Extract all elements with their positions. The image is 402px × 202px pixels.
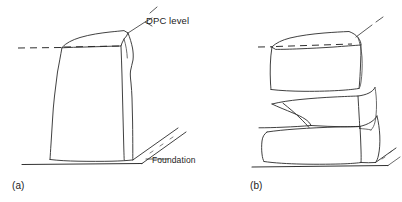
- stone-b-middle-lower-left-edge: [259, 126, 311, 128]
- figure-drawing: [0, 0, 402, 202]
- dpc-leader-line-a: [128, 22, 145, 33]
- stone-b-middle-wedge-face: [283, 103, 309, 127]
- ground-line-a: [22, 164, 142, 165]
- subfigure-caption-b: (b): [250, 180, 263, 191]
- stone-b-lower-right-face: [376, 116, 380, 163]
- stone-a-bottom-edge: [50, 160, 132, 162]
- figure-container: DPC level Foundation (a) (b): [0, 0, 402, 202]
- foundation-hatch-a-3: [170, 137, 173, 139]
- stone-b-upper-bottom-edge: [271, 88, 359, 91]
- stone-a-right-face-crease: [124, 39, 127, 58]
- stone-b-middle-right-face-edge: [360, 129, 371, 131]
- stone-a-front-right-edge: [121, 46, 124, 160]
- stone-b-lower-left-edge: [262, 132, 267, 162]
- foundation-hatch-b-2: [389, 151, 392, 153]
- stone-b-upper-left-edge: [270, 47, 272, 90]
- dpc-leader-line-b: [356, 25, 372, 37]
- ground-line-b: [252, 166, 388, 168]
- stone-a-top-face: [62, 31, 128, 48]
- stone-b-middle-left-outline: [272, 104, 311, 126]
- foundation-label: Foundation: [152, 155, 196, 165]
- dpc-leader-tick-b: [376, 17, 383, 22]
- stone-a-right-face: [128, 33, 133, 160]
- stone-b-lower-right-edge: [360, 126, 361, 162]
- stone-b-middle-top-face: [272, 88, 375, 105]
- dpc-level-dashed-line-a: [18, 48, 62, 49]
- stone-b-upper-top-face: [272, 32, 361, 50]
- foundation-ground-corner-b: [388, 157, 400, 166]
- dpc-leader-tick-a: [150, 7, 157, 13]
- subfigure-caption-a: (a): [12, 180, 25, 191]
- dpc-level-label: DPC level: [146, 15, 189, 26]
- stone-b-lower-bottom-edge: [264, 162, 361, 165]
- stone-a-left-face: [50, 48, 62, 160]
- stone-b-middle-right-face: [371, 88, 377, 131]
- stone-b-middle-right-outline: [358, 96, 360, 129]
- foundation-hatch-a-1: [150, 151, 153, 153]
- foundation-hatch-a-2: [160, 144, 163, 146]
